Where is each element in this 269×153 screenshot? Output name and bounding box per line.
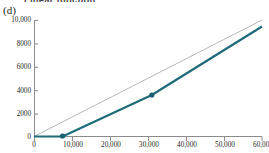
linear-function-series [34, 27, 262, 137]
plot-area [34, 20, 262, 137]
x-tick-label: 20,000 [92, 142, 130, 149]
y-axis-ticks [35, 21, 39, 137]
data-marker-kink-point [60, 133, 65, 138]
x-tick-label: 30,000 [130, 142, 168, 149]
x-tick-label: 0 [16, 142, 52, 149]
reference-line-series [34, 20, 262, 137]
chart-svg [34, 20, 262, 137]
figure-panel: Linear function (d) 10,000 8000 6000 400… [0, 0, 269, 153]
x-tick-label: 60,000 [244, 142, 269, 149]
x-tick-label: 10,000 [54, 142, 92, 149]
data-marker-mid-point [149, 92, 154, 97]
x-tick-label: 50,000 [206, 142, 244, 149]
x-tick-label: 40,000 [168, 142, 206, 149]
